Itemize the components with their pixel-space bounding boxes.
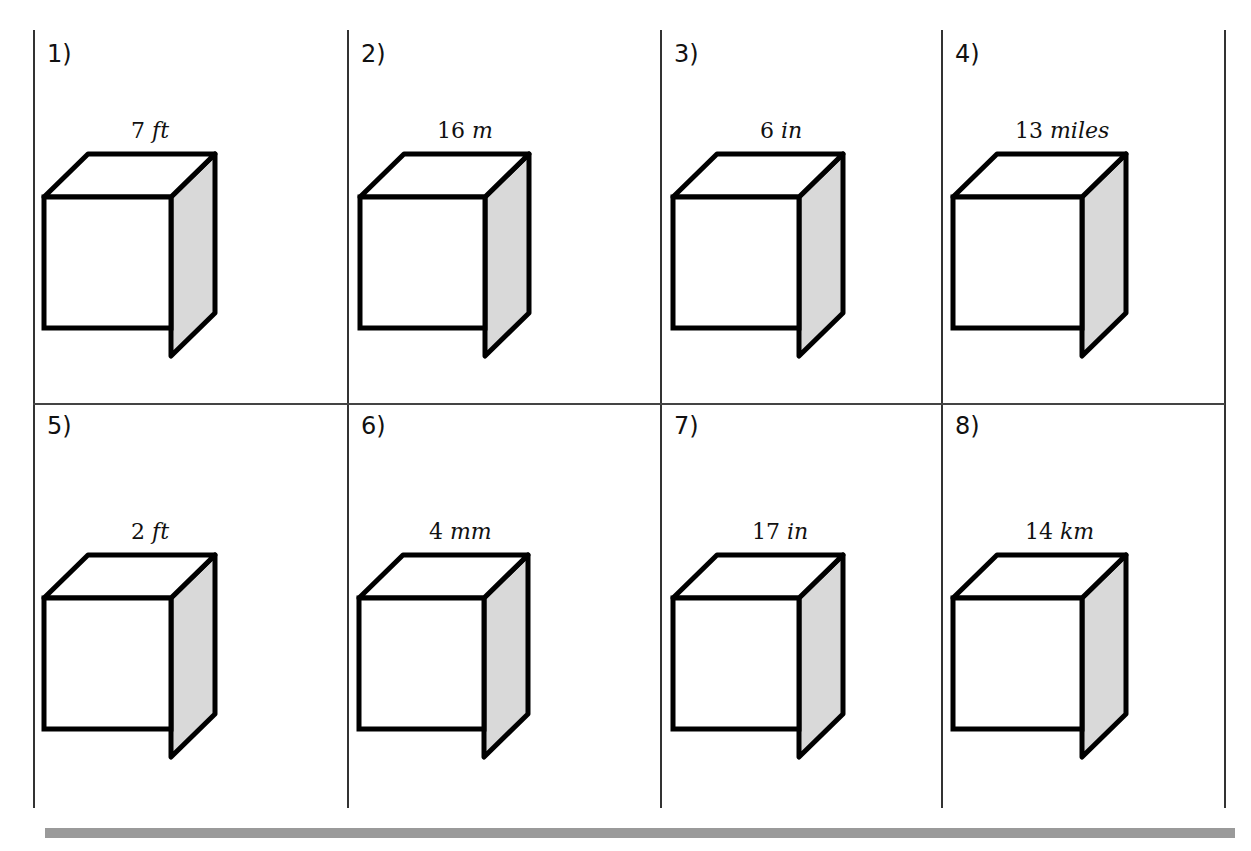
problem-number: 5) bbox=[47, 412, 72, 440]
edge-length-label: 2 ft bbox=[131, 519, 169, 544]
problem-cell: 8) 14 km bbox=[941, 404, 1224, 808]
problem-number: 3) bbox=[674, 40, 699, 68]
cube-figure bbox=[952, 551, 1132, 731]
problem-cell: 2) 16 m bbox=[347, 30, 660, 403]
problem-number: 6) bbox=[361, 412, 386, 440]
edge-length-label: 14 km bbox=[1025, 519, 1094, 544]
grid-line-vertical bbox=[1224, 30, 1226, 808]
problem-cell: 6) 4 mm bbox=[347, 404, 660, 808]
edge-length-label: 16 m bbox=[437, 118, 493, 143]
cube-figure bbox=[672, 551, 852, 731]
edge-length-label: 7 ft bbox=[131, 118, 169, 143]
problem-number: 4) bbox=[955, 40, 980, 68]
problem-cell: 5) 2 ft bbox=[33, 404, 347, 808]
cube-figure bbox=[952, 150, 1132, 330]
cube-figure bbox=[672, 150, 852, 330]
cube-figure bbox=[43, 150, 223, 330]
edge-length-label: 17 in bbox=[752, 519, 808, 544]
problem-number: 1) bbox=[47, 40, 72, 68]
cube-figure bbox=[43, 551, 223, 731]
cube-figure bbox=[358, 551, 538, 731]
problem-number: 7) bbox=[674, 412, 699, 440]
edge-length-label: 6 in bbox=[760, 118, 802, 143]
problem-cell: 1) 7 ft bbox=[33, 30, 347, 403]
edge-length-label: 13 miles bbox=[1015, 118, 1109, 143]
problem-cell: 3) 6 in bbox=[660, 30, 941, 403]
problem-cell: 4) 13 miles bbox=[941, 30, 1224, 403]
problem-cell: 7) 17 in bbox=[660, 404, 941, 808]
edge-length-label: 4 mm bbox=[429, 519, 492, 544]
footer-divider-bar bbox=[45, 828, 1235, 838]
problem-number: 8) bbox=[955, 412, 980, 440]
cube-figure bbox=[359, 150, 539, 330]
problem-number: 2) bbox=[361, 40, 386, 68]
